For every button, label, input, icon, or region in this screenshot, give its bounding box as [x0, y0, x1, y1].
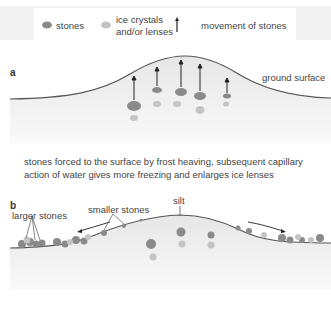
ice-crystal-icon — [101, 22, 111, 29]
panel-a-label: a — [10, 67, 16, 78]
smaller-stones-label: smaller stones — [88, 204, 149, 215]
caption: stones forced to the surface by frost he… — [24, 155, 324, 181]
legend-stones-label: stones — [56, 20, 84, 31]
caption-line-1: stones forced to the surface by frost he… — [24, 155, 324, 168]
ground-surface-label: ground surface — [262, 72, 325, 83]
soil-mound — [10, 56, 331, 144]
stone-icon — [42, 22, 52, 29]
caption-line-2: action of water gives more freezing and … — [24, 168, 324, 181]
legend-ice-label-1: ice crystals — [116, 14, 163, 25]
legend-ice-label-2: and/or lenses — [116, 26, 173, 37]
silt-label: silt — [173, 195, 185, 206]
larger-stones-label: larger stones — [12, 210, 67, 221]
legend-movement-label: movement of stones — [201, 20, 287, 31]
panel-a-diagram — [0, 52, 331, 152]
legend: stones ice crystals and/or lenses moveme… — [34, 8, 296, 44]
soil-mound — [10, 215, 331, 290]
